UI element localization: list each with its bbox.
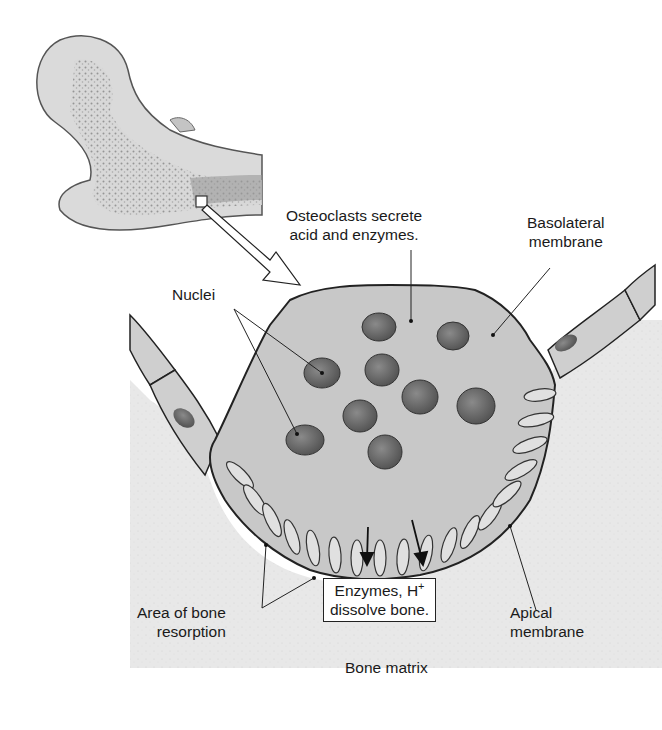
enzymes-dissolve-bone-label: Enzymes, H+ dissolve bone. — [323, 578, 436, 622]
area-of-bone-resorption-label: Area of bone resorption — [137, 603, 226, 641]
nuclei-label: Nuclei — [172, 285, 215, 304]
apical-membrane-label: Apical membrane — [510, 603, 584, 641]
osteoclasts-label: Osteoclasts secrete acid and enzymes. — [286, 206, 422, 244]
sample-region-marker — [196, 196, 207, 207]
femur-illustration — [37, 36, 262, 230]
basolateral-membrane-label: Basolateral membrane — [527, 213, 605, 251]
bone-matrix-label: Bone matrix — [345, 658, 428, 677]
